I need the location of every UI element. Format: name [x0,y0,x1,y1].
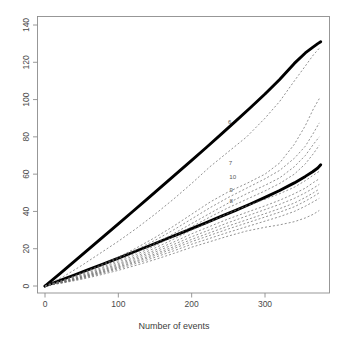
chart-background [0,0,348,342]
y-tick-label: 40 [21,206,31,216]
curve-label-8: 8 [230,197,234,204]
curve-label-9: 9 [230,186,234,193]
x-tick-label: 100 [111,299,125,309]
y-tick-label: 60 [21,169,31,179]
x-axis-title: Number of events [138,321,210,331]
curve-label-6: 6 [228,118,232,125]
y-tick-label: 120 [21,55,31,69]
y-tick-label: 20 [21,244,31,254]
y-tick-label: 80 [21,132,31,142]
y-tick-label: 140 [21,18,31,32]
y-tick-label: 100 [21,92,31,106]
x-tick-label: 300 [258,299,272,309]
line-chart-canvas: 0100200300 020406080100120140 671098 Num… [0,0,348,342]
curve-label-7: 7 [229,159,233,166]
x-tick-label: 0 [43,299,48,309]
curve-label-10: 10 [229,173,236,180]
x-tick-label: 200 [185,299,199,309]
chart-figure: 0100200300 020406080100120140 671098 Num… [0,0,348,342]
y-tick-label: 0 [21,283,31,288]
